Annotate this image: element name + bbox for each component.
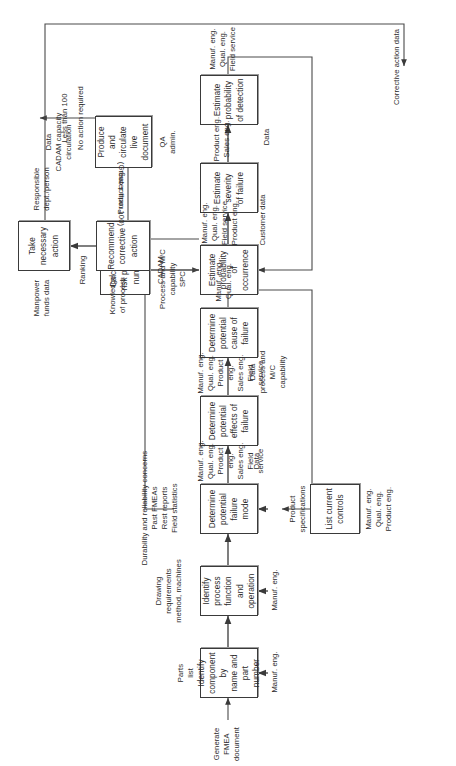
- node-label: Identify process function and operation: [201, 569, 256, 613]
- node-label: Determine potential effects of failure: [207, 402, 251, 441]
- label-n5-resource: Manuf. eng. Qual. eng.: [214, 256, 234, 306]
- node-identify-process[interactable]: Identify process function and operation: [200, 566, 258, 616]
- label-n11-resource: QA admin.: [158, 118, 178, 166]
- label-n1-resource: Manuf. eng.: [270, 644, 280, 700]
- label-parts-list: Parts list: [176, 652, 196, 694]
- label-durability-concerns: Durability and reliability concerns Past…: [140, 432, 180, 584]
- label-n12-resource: Product eng.: [116, 166, 126, 218]
- label-n13-resource: Responsible dept./person: [32, 160, 52, 218]
- label-product-specifications: Product specifications: [288, 476, 308, 542]
- label-manpower-funds: Manpower funds data: [32, 272, 52, 324]
- label-n6-resource: Manuf. eng. Qual. eng. Product eng.: [364, 478, 394, 540]
- label-customer-data: Customer data: [258, 190, 268, 250]
- label-n8-resource: Product eng. Sales eng.: [212, 116, 232, 162]
- diagram-canvas: Identify component by name and part numb…: [0, 0, 456, 766]
- label-corrective-action-data: Corrective action data: [392, 8, 402, 126]
- label-n2-resource: Manuf. eng.: [270, 562, 280, 618]
- node-label: List current controls: [324, 488, 346, 530]
- node-label: Take necessary action: [27, 227, 60, 265]
- label-n7-resource: Manuf. eng. Qual. eng. Field service Pro…: [200, 200, 240, 246]
- node-determine-effects[interactable]: Determine potential effects of failure: [200, 396, 258, 446]
- label-data-1: Data: [252, 444, 262, 478]
- label-data-process-capability: Data process and M/C capability: [248, 344, 288, 400]
- label-n10-resource: CADAM: [156, 244, 166, 296]
- label-no-action-required: No action required: [76, 80, 86, 156]
- node-determine-failure-mode[interactable]: Determine potential failure mode: [200, 484, 258, 534]
- label-knowledge-of-process: Knowledge of process: [108, 270, 128, 320]
- label-less-than-100: Less than 100: [60, 88, 70, 148]
- node-label: Identify component by name and part numb…: [196, 651, 262, 695]
- label-data-2: Data: [262, 120, 272, 154]
- node-label: Determine potential failure mode: [207, 487, 251, 531]
- node-identify-component[interactable]: Identify component by name and part numb…: [200, 648, 258, 698]
- label-start: Generate FMEA document: [212, 720, 242, 766]
- node-list-current-controls[interactable]: List current controls: [310, 484, 360, 534]
- node-label: Determine potential cause of failure: [207, 314, 251, 353]
- label-n9-resource: Manuf. eng. Qual. eng. Field service: [208, 24, 238, 74]
- label-ranking: Ranking: [78, 234, 88, 306]
- node-take-necessary-action[interactable]: Take necessary action: [18, 221, 70, 271]
